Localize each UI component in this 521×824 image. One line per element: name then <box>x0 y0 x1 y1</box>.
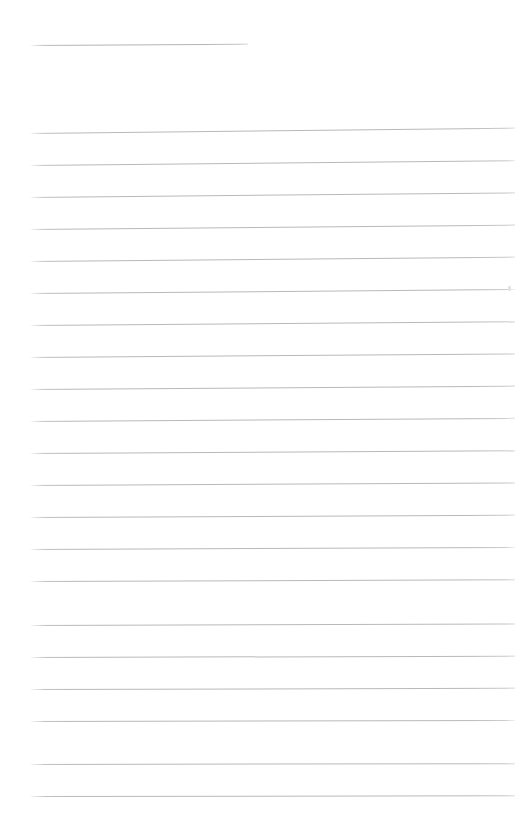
scan-speck-right-margin <box>508 286 511 291</box>
scanned-page <box>0 0 521 824</box>
scan-artifact-layer <box>0 0 521 824</box>
